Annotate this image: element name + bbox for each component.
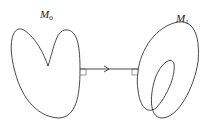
right-angle-marker-left [80,69,86,75]
diagram-canvas: M0 M1 [0,0,211,130]
curve-m0 [11,29,80,118]
label-m0: M0 [39,8,53,22]
right-angle-marker-right [132,69,138,75]
curve-m1 [137,22,198,118]
label-m1: M1 [175,12,189,26]
